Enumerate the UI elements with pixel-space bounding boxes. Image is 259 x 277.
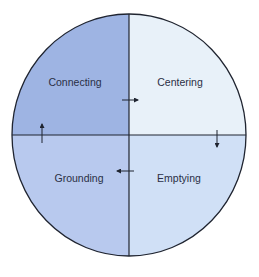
quadrant-grounding [0, 135, 129, 277]
quadrant-centering [129, 0, 259, 135]
cycle-diagram: Connecting Centering Emptying Grounding [0, 0, 259, 277]
label-grounding: Grounding [54, 172, 103, 184]
quadrant-connecting [0, 0, 129, 135]
label-connecting: Connecting [48, 76, 101, 88]
quadrant-emptying [129, 135, 259, 277]
label-centering: Centering [157, 76, 203, 88]
label-emptying: Emptying [157, 172, 201, 184]
